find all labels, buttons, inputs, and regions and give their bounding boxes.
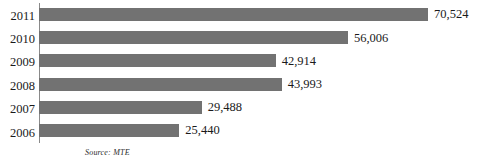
bar-value-label-2009: 42,914 bbox=[282, 55, 316, 68]
bar-2006 bbox=[39, 124, 179, 137]
category-label-2008: 2008 bbox=[0, 80, 35, 93]
category-label-2009: 2009 bbox=[0, 56, 35, 69]
bar-2008 bbox=[39, 78, 282, 91]
bar-2010 bbox=[39, 31, 348, 44]
category-label-2006: 2006 bbox=[0, 127, 35, 140]
category-label-2011: 2011 bbox=[0, 10, 35, 23]
bar-row: 42,914 bbox=[39, 49, 316, 72]
bar-row: 43,993 bbox=[39, 73, 322, 96]
bar-row: 70,524 bbox=[39, 3, 468, 26]
bar-chart: 2011 2010 2009 2008 2007 2006 70,524 56,… bbox=[0, 0, 478, 165]
bar-row: 56,006 bbox=[39, 26, 388, 49]
bar-value-label-2011: 70,524 bbox=[434, 8, 468, 21]
bar-row: 25,440 bbox=[39, 119, 220, 142]
bar-value-label-2008: 43,993 bbox=[288, 78, 322, 91]
bar-value-label-2007: 29,488 bbox=[208, 101, 242, 114]
bar-2009 bbox=[39, 54, 276, 67]
bar-value-label-2006: 25,440 bbox=[185, 124, 219, 137]
category-label-2007: 2007 bbox=[0, 103, 35, 116]
category-label-2010: 2010 bbox=[0, 33, 35, 46]
bar-2011 bbox=[39, 8, 428, 21]
bar-value-label-2010: 56,006 bbox=[354, 32, 388, 45]
plot-area: 70,524 56,006 42,914 43,993 29,488 25,44… bbox=[39, 3, 478, 143]
bar-2007 bbox=[39, 101, 202, 114]
source-note: Source: MTE bbox=[85, 148, 130, 157]
bar-row: 29,488 bbox=[39, 96, 242, 119]
